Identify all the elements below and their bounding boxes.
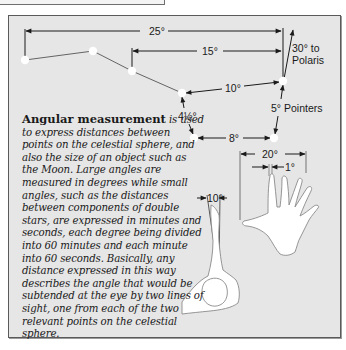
constellation-lines bbox=[25, 51, 182, 93]
star-icon bbox=[128, 67, 136, 75]
label-10-degrees-fist: 10° bbox=[207, 192, 223, 204]
label-25-degrees: 25° bbox=[149, 25, 165, 37]
fist-illustration bbox=[202, 278, 227, 306]
caption-heading: Angular measurement bbox=[22, 112, 166, 126]
caption-body: is used to express distances between poi… bbox=[22, 114, 204, 339]
hand-illustration bbox=[243, 174, 319, 255]
dimension-5-degrees-pointers: 5° Pointers bbox=[271, 85, 322, 134]
star-icon bbox=[89, 47, 97, 55]
label-30-to: 30° to bbox=[292, 42, 320, 54]
label-10-degrees: 10° bbox=[225, 82, 241, 94]
star-icon bbox=[270, 134, 278, 142]
label-15-degrees: 15° bbox=[202, 45, 218, 57]
label-20-degrees: 20° bbox=[262, 148, 278, 160]
dimension-8-degrees: 8° bbox=[198, 132, 270, 144]
star-icon bbox=[279, 77, 287, 85]
label-polaris: Polaris bbox=[292, 54, 324, 66]
figure-caption: Angular measurement is used to express d… bbox=[22, 113, 204, 341]
star-icon bbox=[21, 56, 29, 64]
dimension-1-degree-finger: 1° bbox=[252, 161, 295, 176]
dimension-15-degrees: 15° bbox=[132, 45, 281, 69]
polaris-pointer: 30° to Polaris bbox=[284, 30, 324, 79]
dimension-10-degrees: 10° bbox=[186, 82, 279, 94]
label-8-degrees: 8° bbox=[229, 132, 239, 144]
label-5-pointers: 5° Pointers bbox=[271, 102, 322, 114]
star-icon bbox=[178, 89, 186, 97]
dimension-25-degrees: 25° bbox=[25, 25, 283, 79]
label-1-degree: 1° bbox=[285, 161, 295, 173]
